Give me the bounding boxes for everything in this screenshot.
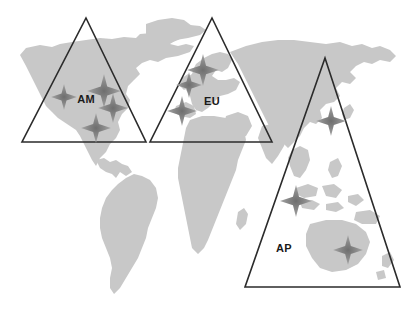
region-label-am: AM bbox=[77, 93, 95, 105]
region-label-ap: AP bbox=[276, 242, 292, 254]
world-map-canvas: AMEUAP bbox=[0, 0, 419, 311]
world-region-diagram: AMEUAP bbox=[0, 0, 419, 311]
region-label-eu: EU bbox=[204, 95, 220, 107]
